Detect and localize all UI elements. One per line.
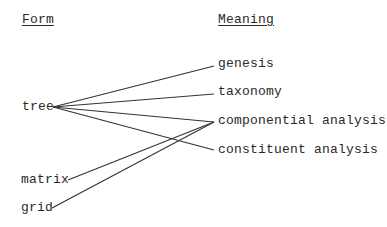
link-tree-constituent-analysis	[53, 107, 214, 150]
link-grid-componential-analysis	[52, 122, 214, 208]
form-tree: tree	[22, 100, 54, 114]
meaning-componential-analysis: componential analysis	[218, 114, 386, 128]
form-column-heading: Form	[22, 13, 54, 27]
meaning-genesis: genesis	[218, 57, 274, 71]
meaning-column-heading: Meaning	[218, 13, 274, 27]
form-grid: grid	[21, 201, 53, 215]
meaning-taxonomy: taxonomy	[218, 85, 282, 99]
link-tree-componential-analysis	[53, 107, 214, 122]
meaning-constituent-analysis: constituent analysis	[218, 143, 378, 157]
form-matrix: matrix	[21, 173, 69, 187]
